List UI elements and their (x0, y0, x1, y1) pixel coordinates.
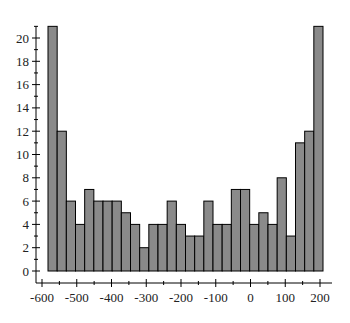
x-tick-label: -300 (134, 290, 158, 305)
histogram-bar (158, 224, 167, 271)
x-tick-label: 200 (310, 290, 330, 305)
histogram-bar (85, 189, 94, 271)
histogram-bar (296, 143, 305, 271)
histogram-bar (268, 224, 277, 271)
y-tick-label: 16 (16, 77, 30, 92)
x-tick-label: 100 (276, 290, 296, 305)
histogram-bar (94, 201, 103, 271)
histogram-bar (48, 26, 57, 271)
histogram-bar (140, 248, 149, 271)
histogram-bar (103, 201, 112, 271)
histogram-bar (222, 224, 231, 271)
histogram-bar (286, 236, 295, 271)
histogram-bar (213, 224, 222, 271)
histogram-bars (48, 26, 323, 271)
histogram-bar (204, 201, 213, 271)
histogram-bar (305, 131, 314, 271)
histogram-bar (66, 201, 75, 271)
y-tick-label: 10 (16, 147, 29, 162)
x-tick-label: -400 (100, 290, 124, 305)
x-tick-label: -600 (30, 290, 54, 305)
y-tick-label: 12 (16, 124, 29, 139)
histogram-bar (259, 213, 268, 271)
histogram-bar (231, 189, 240, 271)
histogram-bar (186, 236, 195, 271)
y-tick-label: 18 (16, 54, 29, 69)
histogram-bar (149, 224, 158, 271)
x-tick-label: 0 (247, 290, 254, 305)
histogram-bar (176, 224, 185, 271)
histogram-bar (76, 224, 85, 271)
histogram-bar (195, 236, 204, 271)
x-tick-label: -200 (169, 290, 193, 305)
x-tick-label: -500 (65, 290, 89, 305)
histogram-bar (131, 224, 140, 271)
y-axis: 02468101214161820 (16, 26, 40, 283)
x-axis: -600-500-400-300-200-1000100200 (30, 279, 332, 305)
histogram-bar (241, 189, 250, 271)
y-tick-label: 2 (23, 240, 30, 255)
y-tick-label: 0 (23, 264, 30, 279)
histogram-bar (112, 201, 121, 271)
y-tick-label: 8 (23, 170, 30, 185)
y-tick-label: 20 (16, 31, 29, 46)
x-tick-label: -100 (204, 290, 228, 305)
y-tick-label: 6 (23, 194, 30, 209)
histogram-bar (314, 26, 323, 271)
histogram-bar (277, 178, 286, 271)
y-tick-label: 14 (16, 100, 30, 115)
histogram-chart: 02468101214161820 -600-500-400-300-200-1… (0, 0, 350, 323)
histogram-bar (250, 224, 259, 271)
histogram-bar (57, 131, 66, 271)
y-tick-label: 4 (23, 217, 30, 232)
histogram-bar (167, 201, 176, 271)
histogram-bar (121, 213, 130, 271)
